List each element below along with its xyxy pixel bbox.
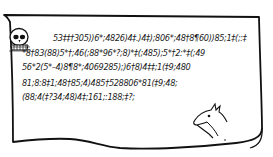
kid-goat-icon [185, 98, 230, 143]
cipher-line-1: 53‡‡†305))6*;4826)4‡.)4‡);806*;48†8¶60))… [53, 33, 247, 43]
cipher-line-5: (88;4(‡?34;48)4‡;161;:188;‡?; [22, 92, 135, 102]
cipher-line-3: 56*2(5*–4)8¶8*;4069285);)6†8)4‡‡;1(‡9;48… [22, 62, 190, 72]
cipher-line-2: *8†83(88)5*†;46(;88*96*?;8)*‡(;485);5*†2… [22, 48, 205, 58]
cipher-line-4: 81;8:8‡1;48†85;4)485†528806*81(‡9;48; [22, 78, 177, 88]
